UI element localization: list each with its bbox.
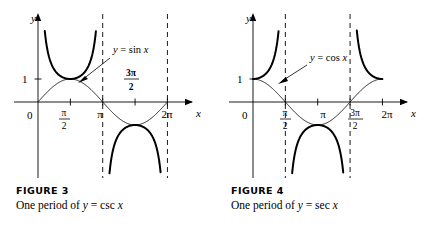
annot-eq: = [315, 52, 326, 63]
caption-func-3: csc [100, 199, 115, 211]
x-tick-label-3pi-over-2: 3π 2 [348, 108, 363, 131]
caption-eq-3: = [88, 199, 100, 211]
svg-text:y = cos x: y = cos x [309, 52, 347, 63]
annotation-cos: y = cos x [278, 52, 347, 84]
y-tick-label-1: 1 [22, 73, 28, 85]
caption-eq-4: = [303, 199, 315, 211]
figure-panel-csc: y x 0 1 π 2 π 3π 2 2π y = [0, 0, 215, 228]
caption-func-4: sec [315, 199, 330, 211]
caption-prefix-4: One period of [231, 199, 298, 211]
annot-eq: = [118, 44, 129, 55]
tick-marks-sec [250, 79, 383, 106]
annot-arg: x [340, 52, 348, 63]
svg-text:π: π [283, 108, 288, 118]
svg-text:π: π [62, 108, 67, 118]
plot-sec: y x 0 1 π 2 π 3π 2 2π y = cos x [215, 0, 430, 178]
caption-prefix-3: One period of [16, 199, 83, 211]
plot-csc: y x 0 1 π 2 π 3π 2 2π y = [0, 0, 215, 178]
caption-arg-4: x [330, 199, 338, 211]
svg-text:3π: 3π [350, 108, 360, 118]
origin-label: 0 [27, 109, 33, 121]
caption-figure-4: FIGURE 4 One period of y = sec x [231, 184, 430, 213]
figure-page: y x 0 1 π 2 π 3π 2 2π y = [0, 0, 430, 228]
x-tick-label-pi: π [97, 108, 103, 120]
x-axis-label: x [195, 107, 201, 119]
x-tick-label-pi-over-2: π 2 [280, 108, 291, 131]
svg-text:2: 2 [62, 121, 67, 131]
svg-text:2: 2 [353, 121, 358, 131]
svg-text:3π: 3π [126, 68, 137, 78]
caption-title-3: FIGURE 3 [16, 184, 216, 197]
x-tick-label-3pi-over-2: 3π 2 [124, 68, 139, 92]
caption-title-4: FIGURE 4 [231, 184, 430, 197]
axes-group-sec [229, 13, 408, 178]
x-tick-label-pi: π [320, 108, 326, 120]
tick-marks-csc [35, 79, 168, 106]
svg-text:2: 2 [129, 82, 134, 92]
caption-arg-3: x [115, 199, 123, 211]
annot-arg: x [141, 44, 149, 55]
caption-text-3: One period of y = csc x [16, 198, 216, 213]
y-tick-label-1: 1 [237, 73, 243, 85]
annotation-arrowhead [278, 77, 288, 84]
y-axis-label: y [245, 12, 251, 24]
figure-panel-sec: y x 0 1 π 2 π 3π 2 2π y = cos x [215, 0, 430, 228]
annot-func: sin [129, 44, 142, 55]
y-axis-label: y [30, 12, 36, 24]
svg-text:2: 2 [283, 121, 288, 131]
svg-text:y = sin x: y = sin x [112, 44, 149, 55]
x-tick-label-2pi: 2π [161, 108, 173, 120]
x-axis-label: x [410, 107, 416, 119]
x-tick-label-pi-over-2: π 2 [59, 108, 70, 131]
axes-group-csc [14, 13, 193, 178]
caption-figure-3: FIGURE 3 One period of y = csc x [16, 184, 216, 213]
origin-label: 0 [242, 109, 248, 121]
x-tick-label-2pi: 2π [381, 108, 393, 120]
caption-text-4: One period of y = sec x [231, 198, 430, 213]
annot-func: cos [326, 52, 340, 63]
